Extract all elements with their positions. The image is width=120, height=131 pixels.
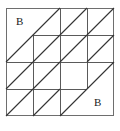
diagonal-r2c2 xyxy=(33,35,60,62)
region-label-b-lower-right: B xyxy=(94,97,101,108)
region-label-b-upper-left: B xyxy=(16,16,23,27)
diagonal-r3c1 xyxy=(6,62,33,89)
diagonal-r1c3 xyxy=(60,8,87,35)
diagonal-r3c2 xyxy=(33,62,60,89)
geometry-figure: B B xyxy=(0,0,120,131)
diagonal-r1c4 xyxy=(87,8,114,35)
diagonal-r2c3 xyxy=(60,35,87,62)
diagonal-r2c4 xyxy=(87,35,114,62)
diagonal-r4c2 xyxy=(33,89,60,116)
diagonal-r4c1 xyxy=(6,89,33,116)
